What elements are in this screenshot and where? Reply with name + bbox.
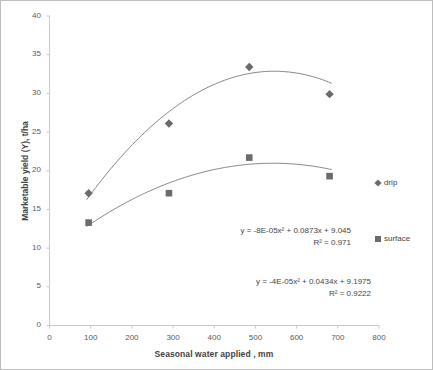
x-tick-label: 800 [359,333,399,342]
drip-equation-text: y = -8E-05x² + 0.0873x + 9.045 [181,225,351,237]
x-tick-label: 700 [318,333,358,342]
y-tick-label: 40 [9,11,41,20]
chart-plot-area [1,1,433,370]
diamond-marker-icon [374,179,381,186]
data-point-surface[interactable] [166,190,173,197]
legend-label-surface: surface [384,234,410,243]
data-point-drip[interactable] [325,90,333,98]
trendline-group [87,71,332,226]
data-marker-group [84,63,333,226]
data-point-drip[interactable] [165,119,173,127]
y-tick-label: 35 [9,49,41,58]
data-point-drip[interactable] [245,63,253,71]
x-tick-label: 0 [30,333,70,342]
x-axis-title: Seasonal water applied , mm [49,349,379,359]
chart-figure: 0510152025303540 01002003004005006007008… [0,0,433,370]
surface-equation-text: y = -4E-05x² + 0.0434x + 9.1975 [181,276,371,288]
x-tick-label: 600 [277,333,317,342]
trendline-surface [87,163,332,226]
surface-trendline-annotation: y = -4E-05x² + 0.0434x + 9.1975 R² = 0.9… [181,276,371,299]
square-marker-icon [375,236,381,242]
y-axis-title: Marketable yield (Y), t/ha [20,81,30,261]
legend-item-surface[interactable]: surface [375,234,410,243]
x-tick-label: 500 [235,333,275,342]
legend-label-drip: drip [384,178,397,187]
y-tick-label: 5 [9,281,41,290]
trendline-drip [87,71,332,199]
x-tick-label: 400 [194,333,234,342]
data-point-surface[interactable] [246,154,253,161]
data-point-surface[interactable] [326,173,333,180]
y-tick-label: 0 [9,320,41,329]
x-tick-label: 300 [153,333,193,342]
surface-r2-text: R² = 0.9222 [181,288,371,300]
drip-trendline-annotation: y = -8E-05x² + 0.0873x + 9.045 R² = 0.97… [181,225,351,248]
x-tick-label: 200 [112,333,152,342]
drip-r2-text: R² = 0.971 [181,237,351,249]
data-point-drip[interactable] [84,189,92,197]
x-tick-label: 100 [71,333,111,342]
legend-item-drip[interactable]: drip [375,178,397,187]
data-point-surface[interactable] [85,219,92,226]
